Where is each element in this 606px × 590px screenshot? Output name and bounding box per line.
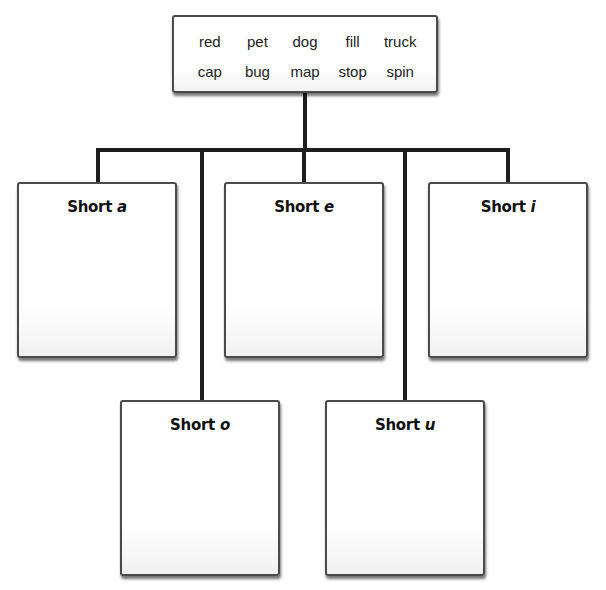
- word: spin: [380, 63, 420, 80]
- word: red: [190, 33, 230, 50]
- word-row-2: cap bug map stop spin: [174, 63, 436, 80]
- word: cap: [190, 63, 230, 80]
- word: bug: [237, 63, 277, 80]
- category-short-o[interactable]: Short o: [120, 400, 280, 576]
- word: dog: [285, 33, 325, 50]
- connector-short-u: [403, 148, 407, 402]
- word: stop: [333, 63, 373, 80]
- category-short-u[interactable]: Short u: [325, 400, 485, 576]
- word: pet: [237, 33, 277, 50]
- connector-short-e: [302, 148, 306, 184]
- connector-trunk: [303, 93, 307, 151]
- category-short-a[interactable]: Short a: [17, 182, 177, 358]
- word: fill: [333, 33, 373, 50]
- category-short-i[interactable]: Short i: [428, 182, 588, 358]
- connector-short-a: [96, 148, 100, 184]
- category-title: Short o: [122, 416, 278, 434]
- category-title: Short a: [19, 198, 175, 216]
- category-title: Short u: [327, 416, 483, 434]
- connector-short-i: [506, 148, 510, 184]
- connector-short-o: [200, 148, 204, 402]
- word-bank: red pet dog fill truck cap bug map stop …: [172, 15, 438, 93]
- word-row-1: red pet dog fill truck: [174, 33, 436, 50]
- word: truck: [380, 33, 420, 50]
- category-short-e[interactable]: Short e: [224, 182, 384, 358]
- category-title: Short e: [226, 198, 382, 216]
- word: map: [285, 63, 325, 80]
- category-title: Short i: [430, 198, 586, 216]
